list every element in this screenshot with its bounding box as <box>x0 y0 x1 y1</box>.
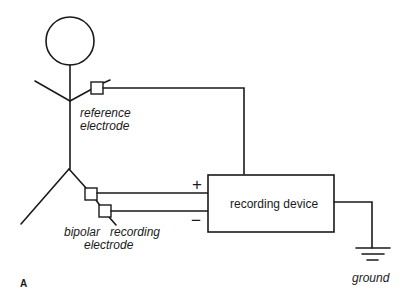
panel-label: A <box>20 278 27 289</box>
right-leg-lower <box>109 217 116 225</box>
head <box>46 17 94 65</box>
ground-label: ground <box>352 271 390 285</box>
right-arm <box>70 89 92 101</box>
plus-sign: + <box>192 175 202 194</box>
right-leg-upper <box>69 169 86 188</box>
bipolar-label-line2: electrode <box>84 238 134 252</box>
recording-device-label: recording device <box>230 197 318 211</box>
reference-electrode <box>91 82 103 94</box>
bipolar-label-recording: recording <box>110 225 160 239</box>
reference-label-line1: reference <box>80 106 131 120</box>
bipolar-electrode-positive <box>85 188 97 200</box>
reference-label-line2: electrode <box>80 119 130 133</box>
electrode-recording-diagram: + − recording device ground reference el… <box>0 0 410 303</box>
left-leg <box>21 169 69 224</box>
ground-wire <box>334 202 372 248</box>
minus-sign: − <box>191 211 201 230</box>
bipolar-label-line1: bipolar <box>64 225 101 239</box>
bipolar-electrode-negative <box>99 205 111 217</box>
left-arm <box>35 81 70 101</box>
